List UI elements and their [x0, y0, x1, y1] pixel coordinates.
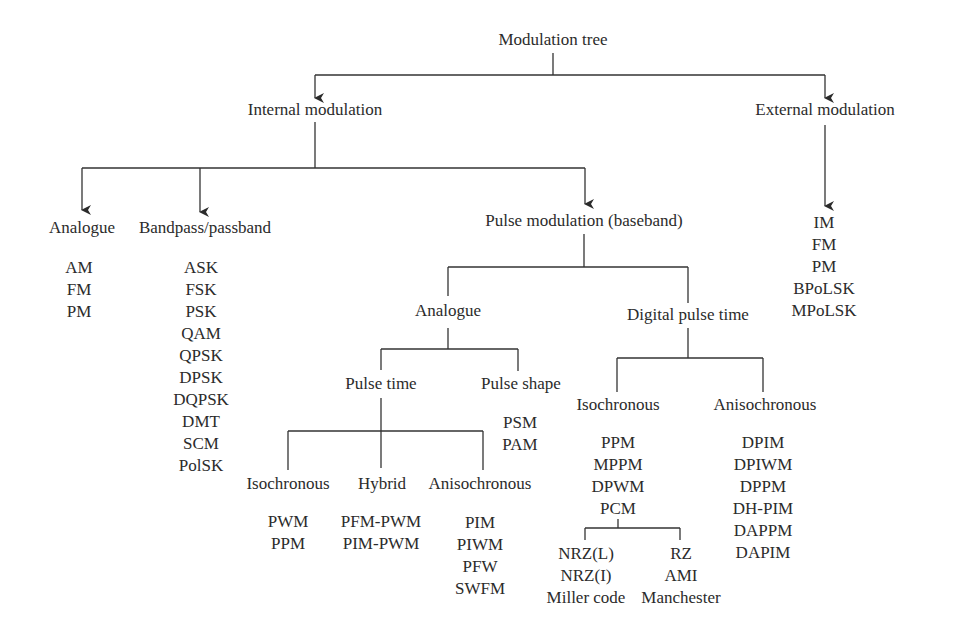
pt-isochronous-list: PWM PPM [268, 511, 309, 555]
list-item: PIM [455, 512, 505, 534]
pcm-nrz-list: NRZ(L) NRZ(I) Miller code [547, 543, 626, 609]
list-item: PFM-PWM [341, 511, 421, 533]
pulse-modulation-label: Pulse modulation (baseband) [485, 210, 682, 232]
dpt-isochronous-list: PPM MPPM DPWM PCM [592, 432, 645, 520]
list-item: PAM [502, 434, 537, 456]
internal-modulation-label: Internal modulation [248, 99, 383, 121]
pcm-rz-list: RZ AMI Manchester [641, 543, 720, 609]
list-item: SCM [173, 433, 229, 455]
list-item: PFW [455, 556, 505, 578]
list-item: NRZ(I) [547, 565, 626, 587]
list-item: NRZ(L) [547, 543, 626, 565]
list-item: Manchester [641, 587, 720, 609]
list-item: PSK [173, 301, 229, 323]
list-item: BPoLSK [791, 278, 856, 300]
list-item: DPSK [173, 367, 229, 389]
external-list: IM FM PM BPoLSK MPoLSK [791, 212, 856, 322]
list-item: DPIWM [733, 454, 793, 476]
pulse-analogue-label: Analogue [415, 300, 481, 322]
pulse-time-label: Pulse time [345, 373, 416, 395]
list-item: MPPM [592, 454, 645, 476]
list-item: FM [65, 279, 92, 301]
dpt-isochronous-label: Isochronous [576, 394, 659, 416]
pulse-shape-list: PSM PAM [502, 412, 537, 456]
list-item: DMT [173, 411, 229, 433]
analogue-list: AM FM PM [65, 257, 92, 323]
list-item: IM [791, 212, 856, 234]
pt-anisochronous-label: Anisochronous [429, 473, 532, 495]
list-item: MPoLSK [791, 300, 856, 322]
list-item: DPIM [733, 432, 793, 454]
list-item: DPWM [592, 476, 645, 498]
list-item: PolSK [173, 455, 229, 477]
list-item: PIWM [455, 534, 505, 556]
list-item: DAPPM [733, 520, 793, 542]
pt-hybrid-list: PFM-PWM PIM-PWM [341, 511, 421, 555]
root-title: Modulation tree [498, 29, 607, 51]
list-item: DH-PIM [733, 498, 793, 520]
external-modulation-label: External modulation [755, 99, 894, 121]
bandpass-list: ASK FSK PSK QAM QPSK DPSK DQPSK DMT SCM … [173, 257, 229, 477]
pt-anisochronous-list: PIM PIWM PFW SWFM [455, 512, 505, 600]
dpt-anisochronous-list: DPIM DPIWM DPPM DH-PIM DAPPM DAPIM [733, 432, 793, 564]
list-item: PPM [592, 432, 645, 454]
list-item: AM [65, 257, 92, 279]
list-item: SWFM [455, 578, 505, 600]
list-item: QAM [173, 323, 229, 345]
list-item: DPPM [733, 476, 793, 498]
dpt-anisochronous-label: Anisochronous [714, 394, 817, 416]
pulse-shape-label: Pulse shape [481, 373, 561, 395]
list-item: ASK [173, 257, 229, 279]
pt-hybrid-label: Hybrid [358, 473, 406, 495]
list-item: PPM [268, 533, 309, 555]
list-item: QPSK [173, 345, 229, 367]
list-item: PCM [592, 498, 645, 520]
list-item: FM [791, 234, 856, 256]
bandpass-label: Bandpass/passband [139, 217, 271, 239]
list-item: RZ [641, 543, 720, 565]
digital-pulse-time-label: Digital pulse time [627, 304, 749, 326]
list-item: DQPSK [173, 389, 229, 411]
list-item: PM [65, 301, 92, 323]
pt-isochronous-label: Isochronous [246, 473, 329, 495]
list-item: FSK [173, 279, 229, 301]
list-item: PM [791, 256, 856, 278]
list-item: PIM-PWM [341, 533, 421, 555]
list-item: Miller code [547, 587, 626, 609]
list-item: AMI [641, 565, 720, 587]
list-item: PSM [502, 412, 537, 434]
list-item: PWM [268, 511, 309, 533]
analogue-label: Analogue [49, 217, 115, 239]
list-item: DAPIM [733, 542, 793, 564]
